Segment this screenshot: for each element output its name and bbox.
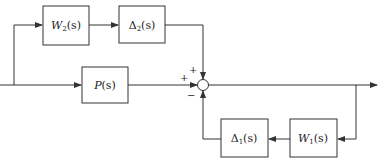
delta1-to-sum [203, 91, 221, 139]
svg-text:P(s): P(s) [93, 79, 116, 92]
summing-junction [198, 80, 209, 91]
sign-bottom: − [187, 90, 195, 101]
block-p: P(s) [82, 67, 128, 103]
block-delta1: Δ1(s) [221, 119, 268, 157]
feedback-to-w1 [338, 85, 356, 139]
branch-to-w2 [14, 25, 42, 85]
svg-text:Δ1(s): Δ1(s) [231, 132, 258, 146]
svg-text:W1(s): W1(s) [298, 132, 328, 146]
block-diagram: + + − W2(s) Δ2(s) P(s) Δ1(s) W1(s) [0, 0, 378, 165]
svg-text:Δ2(s): Δ2(s) [129, 19, 156, 33]
sign-top: + [189, 64, 197, 75]
sign-left: + [180, 72, 188, 83]
svg-text:W2(s): W2(s) [51, 19, 81, 33]
block-w1: W1(s) [290, 119, 337, 157]
block-w2: W2(s) [43, 6, 89, 45]
block-delta2: Δ2(s) [119, 6, 165, 43]
